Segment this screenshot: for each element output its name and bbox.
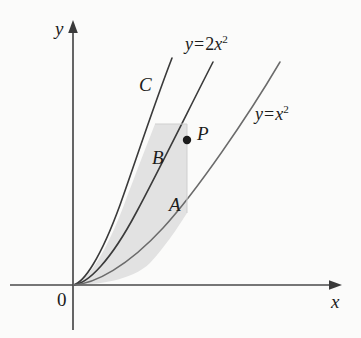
- math-figure: y x 0 C P B A y=2x2 y=x2: [0, 0, 361, 338]
- x-axis-label: x: [331, 292, 339, 311]
- curve-x2-equation-label: y=x2: [255, 104, 289, 123]
- curve-2x2-equation-label: y=2x2: [185, 34, 228, 53]
- eq-2x2-operator: =: [193, 34, 205, 54]
- region-b-label: B: [152, 148, 164, 167]
- eq-x2-lhs: y: [255, 104, 263, 124]
- diagram-canvas: [0, 0, 361, 338]
- origin-label: 0: [57, 290, 67, 309]
- eq-x2-exponent: 2: [283, 103, 289, 115]
- eq-2x2-lhs: y: [185, 34, 193, 54]
- eq-2x2-coefficient: 2: [205, 34, 214, 54]
- eq-2x2-exponent: 2: [222, 33, 228, 45]
- y-axis-label: y: [55, 19, 63, 38]
- eq-2x2-variable: x: [214, 34, 222, 54]
- point-p-marker: [183, 136, 191, 144]
- eq-x2-variable: x: [275, 104, 283, 124]
- curve-c-label: C: [139, 75, 152, 94]
- region-a-label: A: [169, 195, 181, 214]
- x-axis-arrowhead: [329, 280, 342, 290]
- y-axis-arrowhead: [68, 20, 78, 33]
- eq-x2-operator: =: [263, 104, 275, 124]
- point-p-label: P: [197, 124, 209, 143]
